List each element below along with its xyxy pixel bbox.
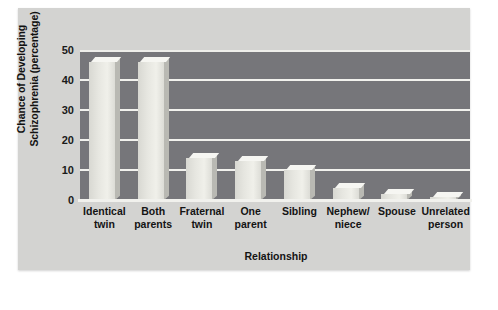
bar [186,158,212,200]
bar-face [89,62,115,200]
y-tick-40: 40 [52,75,74,86]
bar-top-face [384,189,414,194]
bar-side-face [212,154,217,200]
x-tick-line-1: Unrelated [415,205,476,218]
bar-top-face [286,165,316,170]
bar-face [138,62,164,200]
y-tick-20: 20 [52,135,74,146]
y-axis-title-line-2: Schizophrenia (percentage) [28,11,40,146]
bar-side-face [164,58,169,200]
bar [138,62,164,200]
bar-top-face [91,57,121,62]
bar-face [186,158,212,200]
bar-side-face [310,166,315,200]
plot-area [80,50,470,200]
y-axis-ticks: 50 40 30 20 10 0 [50,0,74,310]
y-axis-title: Chance of Developing Schizophrenia (perc… [15,0,41,174]
y-tick-0: 0 [52,195,74,206]
bar-top-face [189,153,219,158]
x-tick-line-2: parent [220,218,281,231]
x-tick-line-2: niece [318,218,379,231]
bar [284,170,310,200]
bar-top-face [238,156,268,161]
bar [89,62,115,200]
x-axis-baseline [78,199,472,202]
y-tick-30: 30 [52,105,74,116]
plot-top-edge [80,50,470,52]
bar-side-face [115,58,120,200]
x-axis-title-text: Relationship [244,250,307,262]
bar-face [235,161,261,200]
bar-top-face [335,183,365,188]
x-tick-line-2: person [415,218,476,231]
y-axis-title-line-1: Chance of Developing [15,25,27,133]
chart-screenshot: Chance of Developing Schizophrenia (perc… [0,0,498,310]
y-tick-50: 50 [52,45,74,56]
bar-top-face [433,192,463,197]
bar-side-face [261,157,266,200]
bar-top-face [140,57,170,62]
bar [235,161,261,200]
bar-face [284,170,310,200]
x-axis-title: Relationship [0,250,498,262]
y-tick-10: 10 [52,165,74,176]
x-tick-label: Unrelatedperson [415,205,476,230]
